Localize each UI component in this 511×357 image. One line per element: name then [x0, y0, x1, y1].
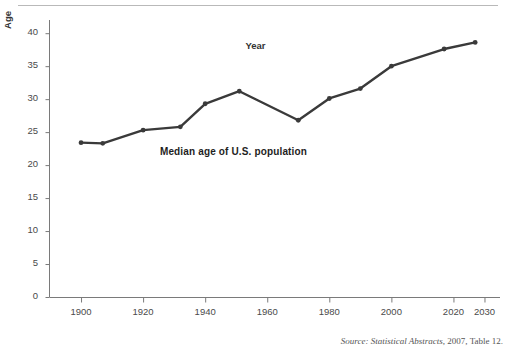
x-tick-label: 1900 — [58, 306, 104, 317]
figure-median-age-chart: Age Year 0510152025303540 19001920194019… — [0, 0, 511, 357]
data-point-marker — [442, 47, 447, 52]
x-tick-label: 1920 — [120, 306, 166, 317]
data-point-marker — [100, 141, 105, 146]
x-tick-marks — [82, 298, 485, 303]
x-tick-label: 2030 — [461, 306, 507, 317]
y-tick-label: 10 — [12, 224, 38, 235]
data-series-line — [81, 42, 475, 143]
data-point-marker — [389, 64, 394, 69]
y-tick-marks — [46, 34, 50, 298]
y-tick-label: 5 — [12, 257, 38, 268]
data-point-marker — [237, 89, 242, 94]
y-tick-label: 20 — [12, 158, 38, 169]
y-axis-title: Age — [0, 13, 27, 27]
source-note: Source: Statistical Abstracts, 2007, Tab… — [341, 336, 503, 346]
chart-title: Median age of U.S. population — [0, 146, 489, 157]
x-tick-label: 1960 — [244, 306, 290, 317]
source-note-detail: , 2007, Table 12. — [443, 336, 503, 346]
y-tick-label: 25 — [12, 125, 38, 136]
data-point-marker — [178, 124, 183, 129]
source-note-citation: Source: Statistical Abstracts — [341, 336, 443, 346]
y-tick-label: 30 — [12, 92, 38, 103]
data-point-marker — [296, 118, 301, 123]
data-point-marker — [79, 140, 84, 145]
y-tick-label: 0 — [12, 290, 38, 301]
data-point-marker — [473, 40, 478, 45]
x-tick-label: 1980 — [306, 306, 352, 317]
y-tick-label: 15 — [12, 191, 38, 202]
data-point-marker — [327, 96, 332, 101]
y-tick-label: 40 — [12, 26, 38, 37]
data-point-marker — [141, 128, 146, 133]
data-point-marker — [203, 101, 208, 106]
axis-lines — [50, 20, 501, 298]
data-series-markers — [79, 40, 478, 146]
x-tick-label: 2000 — [368, 306, 414, 317]
y-tick-label: 35 — [12, 59, 38, 70]
chart-plot-area — [0, 0, 511, 357]
data-point-marker — [358, 86, 363, 91]
x-tick-label: 1940 — [182, 306, 228, 317]
